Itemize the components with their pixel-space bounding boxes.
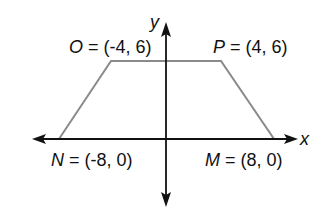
vertex-label-p: P = (4, 6) <box>213 37 288 57</box>
coordinate-figure: x y O = (-4, 6) P = (4, 6) N = (-8, 0) M… <box>0 0 322 221</box>
y-axis-label: y <box>148 12 160 32</box>
x-axis-label: x <box>299 129 310 149</box>
vertex-label-n: N = (-8, 0) <box>51 150 133 170</box>
vertex-label-o: O = (-4, 6) <box>69 37 152 57</box>
vertex-label-m: M = (8, 0) <box>205 150 283 170</box>
